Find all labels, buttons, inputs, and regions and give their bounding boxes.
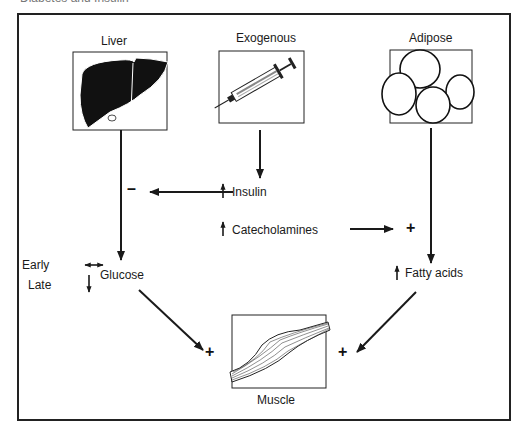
syringe-icon	[211, 51, 304, 123]
late-label: Late	[28, 278, 51, 292]
fatty-acids-to-muscle-sign: +	[338, 343, 347, 361]
diagram-graphics	[0, 0, 529, 436]
exogenous-label: Exogenous	[236, 31, 296, 45]
liver-icon	[73, 52, 168, 130]
liver-label: Liver	[101, 34, 127, 48]
catecholamine-effect-sign: +	[406, 219, 415, 237]
muscle-icon	[230, 315, 330, 388]
catecholamines-label: Catecholamines	[232, 223, 318, 237]
insulin-label: Insulin	[232, 185, 267, 199]
early-label: Early	[22, 258, 49, 272]
muscle-label: Muscle	[257, 393, 295, 407]
fatty-acids-to-muscle-arrow	[357, 292, 416, 352]
adipose-label: Adipose	[409, 31, 452, 45]
glucose-label: Glucose	[100, 268, 144, 282]
fatty-acids-label: Fatty acids	[405, 266, 463, 280]
glucose-to-muscle-arrow	[139, 290, 203, 350]
glucose-to-muscle-sign: +	[205, 343, 214, 361]
adipose-cells-icon	[382, 50, 474, 123]
insulin-effect-sign: –	[127, 180, 136, 198]
